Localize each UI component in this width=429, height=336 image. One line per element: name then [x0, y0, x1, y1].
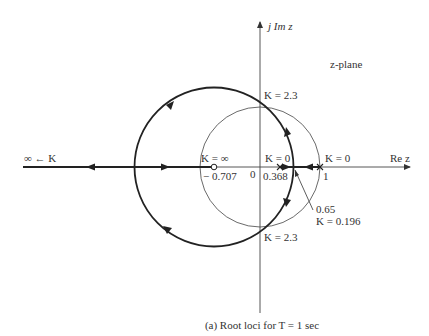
zero-value-label: − 0.707 — [203, 170, 237, 182]
zero-marker — [211, 164, 217, 170]
root-locus-diagram: j Im z z-plane K = 2.3 ∞ ← K K = ∞ K = 0… — [0, 0, 429, 336]
origin-label: 0 — [250, 168, 256, 180]
pole-1-gain-label: K = 0 — [325, 152, 351, 164]
arrow-icon — [304, 164, 313, 171]
plane-label: z-plane — [330, 58, 362, 70]
breakaway-gain-label: K = 0.196 — [316, 215, 361, 227]
lower-crossing-gain-label: K = 2.3 — [264, 231, 298, 243]
pole-0368-gain-label: K = 0 — [265, 152, 291, 164]
pole-1-value-label: 1 — [323, 170, 329, 182]
upper-crossing-gain-label: K = 2.3 — [264, 89, 298, 101]
pole-0368-value-label: 0.368 — [263, 170, 288, 182]
imag-axis-label: j Im z — [266, 20, 293, 32]
arrow-icon — [295, 170, 299, 177]
asymptote-label: ∞ ← K — [24, 152, 56, 164]
zero-gain-label: K = ∞ — [201, 152, 229, 164]
arrow-icon — [284, 127, 291, 137]
figure-caption: (a) Root loci for T = 1 sec — [205, 319, 319, 332]
breakaway-value-label: 0.65 — [316, 203, 336, 215]
real-axis-label: Re z — [390, 152, 410, 164]
arrow-icon — [161, 164, 170, 171]
breakaway-leader-line — [295, 170, 313, 210]
arrow-icon — [86, 164, 95, 171]
